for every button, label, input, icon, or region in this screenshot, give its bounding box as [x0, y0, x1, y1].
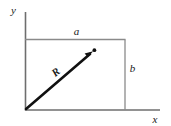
- vector-label-group: R: [48, 65, 62, 80]
- width-label-a: a: [74, 25, 80, 37]
- y-axis-label: y: [10, 4, 16, 16]
- height-label-b: b: [130, 62, 136, 74]
- position-vector-shaft: [26, 54, 90, 109]
- diagram-canvas: y x a b R: [0, 0, 171, 126]
- x-axis-label: x: [152, 113, 158, 125]
- vector-endpoint-dot: [93, 48, 97, 52]
- figure-container: y x a b R: [0, 0, 171, 126]
- vector-label-R: R: [48, 65, 62, 80]
